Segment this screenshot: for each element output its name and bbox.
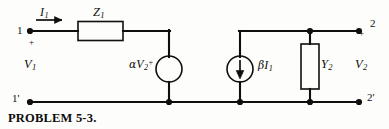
label-series-impedance: Z1 [93, 6, 105, 20]
y2-box [301, 44, 319, 89]
label-dependent-current-source: βI1 [258, 59, 273, 73]
label-input-current: I1 [40, 6, 48, 20]
label-input-voltage: V1 [24, 58, 36, 72]
label-shunt-admittance: Y2 [321, 58, 333, 72]
junction-dot-beta-source-bottom [237, 99, 243, 105]
terminal-label-1-prime: 1' [12, 92, 19, 104]
terminal-dot-1-prime [27, 99, 33, 105]
terminal-label-2-prime: 2' [367, 91, 374, 103]
figure-caption: PROBLEM 5-3. [8, 111, 97, 126]
polarity-plus-output: + [359, 29, 364, 38]
z1-box [78, 22, 123, 41]
terminal-dot-2-prime [356, 99, 362, 105]
terminal-label-1: 1 [17, 24, 23, 36]
alpha-v2-source-circle [156, 56, 182, 82]
junction-dot-alpha-source-bottom [166, 99, 172, 105]
label-output-voltage: V2 [355, 58, 367, 72]
junction-dot-y2-bottom [307, 99, 313, 105]
terminal-label-2: 2 [370, 17, 376, 29]
figure-canvas: I1 Z1 V1 αV2+ βI1 Y2 V2 1 1' 2 2' + + PR… [0, 0, 389, 129]
label-dependent-voltage-source: αV2+ [129, 58, 153, 72]
junction-dot-y2-top [307, 28, 313, 34]
source-arrow-down-icon [236, 60, 244, 79]
polarity-plus-input: + [29, 38, 34, 47]
terminal-dot-1 [27, 28, 33, 34]
